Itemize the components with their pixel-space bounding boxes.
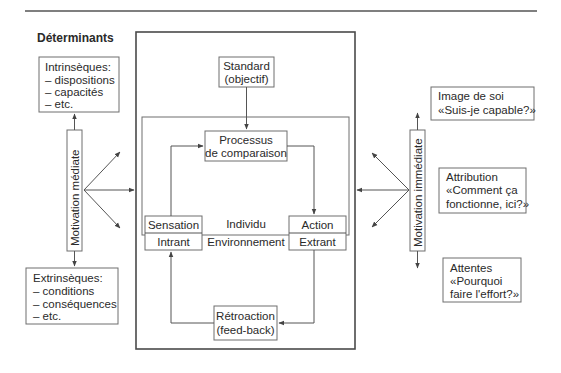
svg-text:Motivation immédiate: Motivation immédiate <box>412 138 424 247</box>
individu-label: Individu <box>226 218 266 230</box>
svg-text:«Suis-je capable?»: «Suis-je capable?» <box>438 104 536 116</box>
svg-text:Attribution: Attribution <box>446 171 498 183</box>
intrinsic-box: Intrinsèques: – dispositions – capacités… <box>39 57 119 112</box>
attribution-box: Attribution «Comment ça fonctionne, ici?… <box>439 168 529 213</box>
svg-text:fonctionne, ici?»: fonctionne, ici?» <box>446 198 529 210</box>
svg-text:– dispositions: – dispositions <box>45 74 115 86</box>
svg-text:Processus: Processus <box>219 134 273 146</box>
svg-text:– conditions: – conditions <box>33 285 95 297</box>
arrow-extrant-to-retroaction <box>279 250 314 323</box>
comparison-box: Processus de comparaison <box>205 131 287 161</box>
motivation-immediate-box: Motivation immédiate <box>410 130 425 251</box>
environnement-label: Environnement <box>207 236 285 248</box>
svg-text:– etc.: – etc. <box>33 310 61 322</box>
svg-text:«Pourquoi: «Pourquoi <box>450 275 502 287</box>
svg-text:(feed-back): (feed-back) <box>216 324 274 336</box>
svg-text:Extrinsèques:: Extrinsèques: <box>33 272 103 284</box>
svg-text:Sensation: Sensation <box>148 219 199 231</box>
svg-text:Extrant: Extrant <box>299 236 336 248</box>
svg-text:– conséquences: – conséquences <box>33 298 117 310</box>
arrow-retroaction-to-intrant <box>171 252 214 323</box>
arrow-comparison-to-action <box>287 146 314 214</box>
motivation-mediate-box: Motivation médiate <box>67 130 82 251</box>
svg-text:faire l'effort?»: faire l'effort?» <box>450 288 519 300</box>
arrow-sensation-to-comparison <box>171 146 203 216</box>
retroaction-box: Rétroaction (feed-back) <box>214 306 277 340</box>
self-image-box: Image de soi «Suis-je capable?» <box>431 87 536 120</box>
svg-text:Attentes: Attentes <box>450 262 492 274</box>
expectations-box: Attentes «Pourquoi faire l'effort?» <box>443 258 521 302</box>
sensation-intrant-box: Sensation Intrant <box>145 216 202 250</box>
svg-text:Intrant: Intrant <box>157 236 190 248</box>
extrinsic-box: Extrinsèques: – conditions – conséquence… <box>26 268 118 324</box>
svg-text:de comparaison: de comparaison <box>205 147 287 159</box>
standard-box: Standard (objectif) <box>219 57 274 87</box>
svg-text:«Comment ça: «Comment ça <box>446 184 518 196</box>
svg-text:Rétroaction: Rétroaction <box>216 310 275 322</box>
svg-text:– capacités: – capacités <box>45 86 103 98</box>
svg-text:Standard: Standard <box>223 60 270 72</box>
left-heading: Déterminants <box>37 31 114 45</box>
action-extrant-box: Action Extrant <box>289 216 346 250</box>
arrow-immediate-up <box>372 153 409 190</box>
arrow-mediate-up <box>84 152 120 190</box>
svg-text:Image de soi: Image de soi <box>438 90 504 102</box>
svg-text:(objectif): (objectif) <box>224 73 268 85</box>
arrow-immediate-down-left <box>372 190 409 227</box>
arrow-mediate-down <box>84 190 120 228</box>
svg-text:– etc.: – etc. <box>45 98 73 110</box>
svg-text:Intrinsèques:: Intrinsèques: <box>45 61 111 73</box>
motivation-diagram: Déterminants Processus Intrinsèques: – d… <box>0 0 561 373</box>
svg-text:Action: Action <box>302 219 334 231</box>
svg-text:Motivation médiate: Motivation médiate <box>69 149 81 246</box>
